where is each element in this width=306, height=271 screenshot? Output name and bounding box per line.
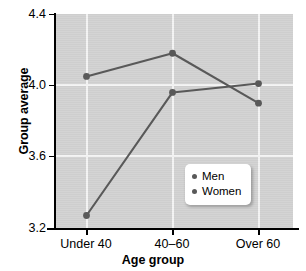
- legend-item-men[interactable]: Men: [185, 169, 251, 184]
- legend-label-men: Men: [202, 171, 224, 183]
- chart-legend: Men Women: [185, 164, 251, 205]
- series-layer: [0, 0, 306, 271]
- data-point-men-over-60: [255, 100, 262, 107]
- data-point-women-over-60: [255, 80, 262, 87]
- data-point-men-40-60: [169, 50, 176, 57]
- legend-marker-men-icon: [192, 174, 197, 179]
- legend-label-women: Women: [202, 186, 241, 198]
- legend-item-women[interactable]: Women: [185, 184, 251, 199]
- series-men: [83, 50, 262, 107]
- legend-marker-women-icon: [192, 189, 197, 194]
- data-point-women-40-60: [169, 89, 176, 96]
- data-point-men-under-40: [83, 73, 90, 80]
- data-point-women-under-40: [83, 212, 90, 219]
- line-chart-figure: Group average 4.4 4.0 3.6 3.2 Under 40 4…: [0, 0, 306, 271]
